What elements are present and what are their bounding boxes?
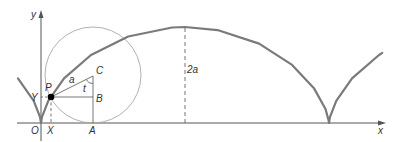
point-b-label: B bbox=[96, 93, 103, 104]
point-p-dot bbox=[48, 94, 55, 101]
point-a-label: A bbox=[88, 125, 96, 136]
angle-t-arc bbox=[86, 79, 93, 83]
origin-label: O bbox=[31, 125, 39, 136]
height-2a-label: 2a bbox=[186, 64, 199, 75]
x-axis bbox=[17, 121, 386, 126]
cycloid-diagram: y x O X A Y P C B a t 2a bbox=[0, 0, 400, 142]
radius-a-label: a bbox=[69, 74, 75, 85]
point-p-label: P bbox=[45, 82, 52, 93]
y-axis-label: y bbox=[30, 9, 37, 20]
x-axis-label: x bbox=[377, 125, 384, 136]
angle-t-label: t bbox=[83, 83, 87, 94]
y-axis-arrow-icon bbox=[39, 10, 44, 18]
point-x-label: X bbox=[46, 125, 54, 136]
point-y-label: Y bbox=[31, 92, 39, 103]
point-c-label: C bbox=[96, 65, 104, 76]
